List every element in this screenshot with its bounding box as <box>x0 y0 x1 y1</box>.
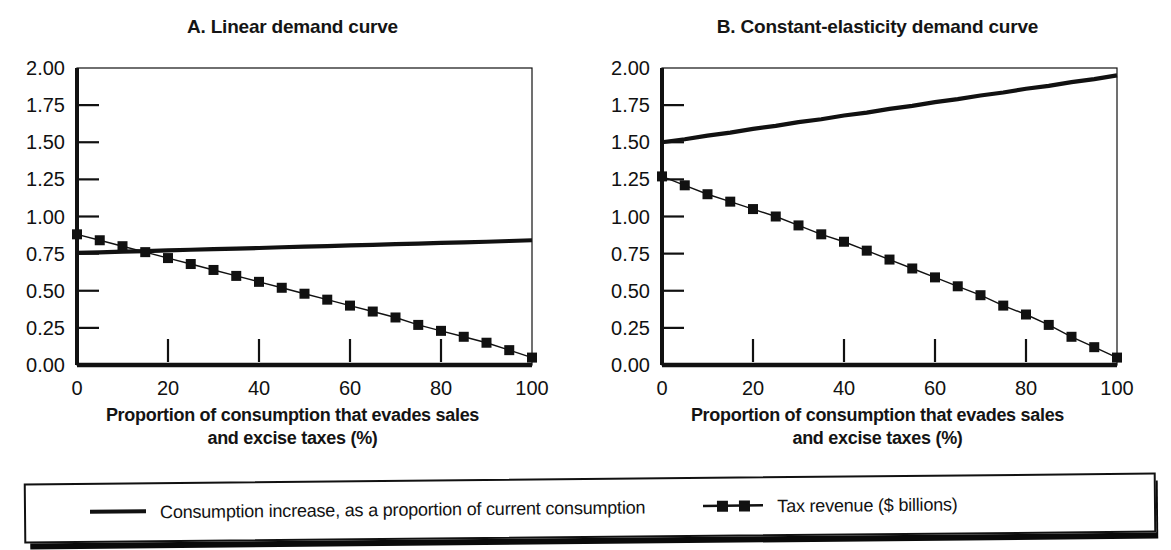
panel-b-marker <box>1089 342 1099 352</box>
panel-b-xaxis-caption-line2: and excise taxes (%) <box>585 427 1170 450</box>
panel-b-xaxis-caption-line1: Proportion of consumption that evades sa… <box>585 404 1170 427</box>
legend-line-icon <box>88 502 148 524</box>
panel-a-marker <box>163 253 173 263</box>
panel-a-xaxis-caption-line1: Proportion of consumption that evades sa… <box>0 404 585 427</box>
panel-a-y-tick-label: 1.50 <box>26 131 65 153</box>
panel-a-y-tick-label: 1.00 <box>26 206 65 228</box>
panel-a-y-tick-label: 0.50 <box>26 280 65 302</box>
panel-b-marker <box>771 212 781 222</box>
legend-line-square-icon <box>701 496 765 518</box>
panel-b-marker <box>748 204 758 214</box>
panel-b-marker <box>725 197 735 207</box>
panel-b-series-0 <box>662 75 1117 142</box>
panel-b-y-tick-label: 0.50 <box>611 280 650 302</box>
panel-a-y-tick-label: 1.75 <box>26 94 65 116</box>
panel-b-marker <box>794 220 804 230</box>
panel-a-marker <box>391 312 401 322</box>
panel-a-title: A. Linear demand curve <box>0 16 585 38</box>
panel-a-xaxis-caption-line2: and excise taxes (%) <box>0 427 585 450</box>
panel-a-marker <box>504 345 514 355</box>
panel-a-x-tick-label: 20 <box>157 377 179 398</box>
panel-a-marker <box>231 271 241 281</box>
panel-b-marker <box>816 229 826 239</box>
panel-b-marker <box>1044 320 1054 330</box>
panel-b-marker <box>1112 353 1122 363</box>
panel-b-y-tick-label: 1.00 <box>611 206 650 228</box>
panel-b-marker <box>1021 310 1031 320</box>
panel-b-x-tick-label: 0 <box>656 377 667 398</box>
panel-b-marker <box>839 237 849 247</box>
panel-a-x-tick-label: 40 <box>248 377 270 398</box>
chart-legend: Consumption increase, as a proportion of… <box>24 473 1157 544</box>
panel-b-y-tick-label: 0.25 <box>611 317 650 339</box>
panel-a-marker <box>345 301 355 311</box>
panel-a-marker <box>459 332 469 342</box>
panel-b-y-tick-label: 0.00 <box>611 354 650 376</box>
panel-b-marker <box>998 301 1008 311</box>
panel-a-marker <box>436 326 446 336</box>
panel-b-x-tick-label: 40 <box>833 377 855 398</box>
panel-a-y-tick-label: 0.75 <box>26 243 65 265</box>
panel-b-y-tick-label: 1.75 <box>611 94 650 116</box>
panel-a-marker <box>209 265 219 275</box>
panel-a-marker <box>368 307 378 317</box>
panel-a-marker <box>72 229 82 239</box>
panel-a-plot: 0.000.250.500.751.001.251.501.752.000204… <box>0 48 585 398</box>
panel-b-y-tick-label: 1.25 <box>611 168 650 190</box>
legend-label-tax-revenue: Tax revenue ($ billions) <box>777 494 957 517</box>
panel-b-y-tick-label: 0.75 <box>611 243 650 265</box>
panel-b-x-tick-label: 60 <box>924 377 946 398</box>
panel-a-marker <box>95 235 105 245</box>
panel-b-title: B. Constant-elasticity demand curve <box>585 16 1170 38</box>
panel-b-marker <box>885 255 895 265</box>
panel-b-plot: 0.000.250.500.751.001.251.501.752.000204… <box>585 48 1170 398</box>
panel-b-marker <box>1067 332 1077 342</box>
panel-a-y-tick-label: 0.25 <box>26 317 65 339</box>
panel-b-x-tick-label: 80 <box>1015 377 1037 398</box>
panels-container: A. Linear demand curve 0.000.250.500.751… <box>0 0 1171 462</box>
panel-a-marker <box>322 295 332 305</box>
panel-b-marker <box>680 180 690 190</box>
figure-root: A. Linear demand curve 0.000.250.500.751… <box>0 0 1171 550</box>
panel-a-plot-frame <box>77 68 532 365</box>
panel-b: B. Constant-elasticity demand curve 0.00… <box>585 0 1170 462</box>
panel-b-marker <box>907 263 917 273</box>
panel-a-marker <box>300 289 310 299</box>
panel-a-marker <box>277 283 287 293</box>
panel-b-marker <box>976 290 986 300</box>
panel-b-x-tick-label: 20 <box>742 377 764 398</box>
panel-b-y-tick-label: 1.50 <box>611 131 650 153</box>
panel-a-marker <box>118 241 128 251</box>
legend-item-consumption-increase: Consumption increase, as a proportion of… <box>88 497 645 523</box>
panel-a-marker <box>140 247 150 257</box>
panel-a-x-tick-label: 80 <box>430 377 452 398</box>
panel-a-y-tick-label: 2.00 <box>26 57 65 79</box>
panel-a-marker <box>186 259 196 269</box>
panel-a-marker <box>527 353 537 363</box>
panel-a-y-tick-label: 0.00 <box>26 354 65 376</box>
panel-a-x-tick-label: 100 <box>515 377 548 398</box>
panel-b-marker <box>703 189 713 199</box>
panel-a-x-tick-label: 0 <box>71 377 82 398</box>
legend-item-tax-revenue: Tax revenue ($ billions) <box>701 494 957 517</box>
panel-a-y-tick-label: 1.25 <box>26 168 65 190</box>
legend-container: Consumption increase, as a proportion of… <box>0 462 1171 550</box>
panel-b-marker <box>953 281 963 291</box>
panel-a-marker <box>254 277 264 287</box>
panel-b-xaxis-caption: Proportion of consumption that evades sa… <box>585 404 1170 449</box>
legend-label-consumption-increase: Consumption increase, as a proportion of… <box>160 497 645 523</box>
panel-a-xaxis-caption: Proportion of consumption that evades sa… <box>0 404 585 449</box>
panel-b-x-tick-label: 100 <box>1100 377 1133 398</box>
panel-b-marker <box>657 171 667 181</box>
panel-a-marker <box>413 320 423 330</box>
panel-b-y-tick-label: 2.00 <box>611 57 650 79</box>
panel-b-marker <box>862 246 872 256</box>
panel-a-x-tick-label: 60 <box>339 377 361 398</box>
panel-b-marker <box>930 272 940 282</box>
panel-a: A. Linear demand curve 0.000.250.500.751… <box>0 0 585 462</box>
panel-a-marker <box>482 338 492 348</box>
